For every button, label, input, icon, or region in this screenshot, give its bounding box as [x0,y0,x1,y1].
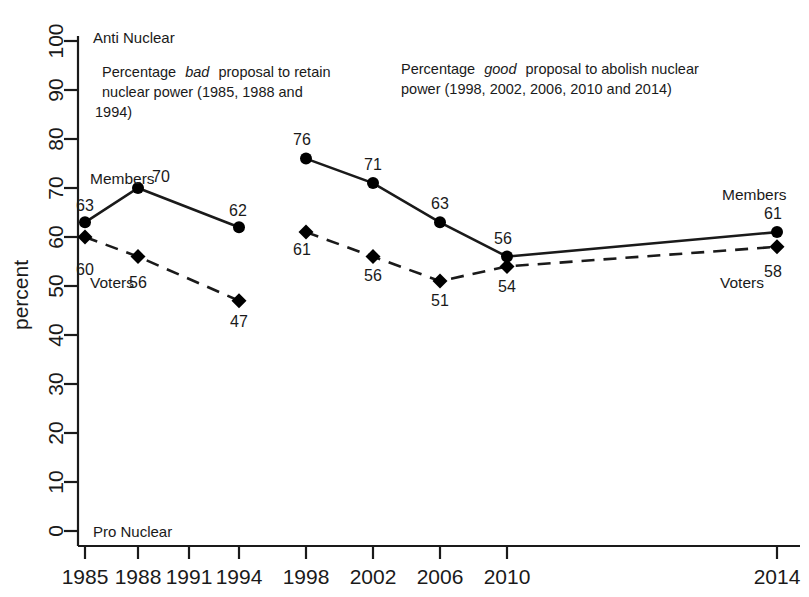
y-tick-label-90: 90 [44,78,67,101]
value-label-members-1985: 63 [76,197,94,214]
voters-marker-2002 [366,249,381,264]
value-label-members-2010: 56 [494,230,512,247]
voters-marker-1994 [232,293,247,308]
note-right-text-a: Percentage [401,61,475,77]
note-left-emphasis: bad [185,64,210,80]
y-tick-label-40: 40 [44,323,67,346]
voters-marker-1985 [78,230,93,245]
series-label-voters-left: Voters [90,274,134,291]
y-tick-label-10: 10 [44,470,67,493]
y-axis-title: percent [9,260,32,330]
series-label-voters-right: Voters [720,274,764,291]
members-marker-2010 [501,251,513,263]
y-tick-label-80: 80 [44,127,67,150]
voters-marker-2014 [770,239,785,254]
y-tick-label-60: 60 [44,225,67,248]
y-tick-label-0: 0 [44,525,67,537]
note-left-line3: 1994) [95,104,132,120]
data-value-labels: 63 70 62 60 56 47 76 71 63 56 61 61 56 5… [76,131,782,330]
y-tick-label-100: 100 [44,23,67,58]
x-tick-label-1988: 1988 [115,565,162,588]
value-label-members-2002: 71 [364,156,382,173]
note-right-line2: power (1998, 2002, 2006, 2010 and 2014) [401,81,672,97]
note-left-line1: Percentage bad proposal to retain [102,64,330,80]
chart-svg: 100 90 80 70 60 50 40 30 20 10 0 percent [0,0,809,597]
x-tick-label-2010: 2010 [484,565,531,588]
value-label-members-1998: 76 [293,131,311,148]
value-label-voters-2006: 51 [431,292,449,309]
value-label-members-1988: 70 [152,168,170,185]
pro-nuclear-label: Pro Nuclear [93,523,172,540]
members-marker-2006 [434,216,446,228]
voters-marker-1998 [299,225,314,240]
x-tick-label-1991: 1991 [166,565,213,588]
value-label-voters-2014: 58 [764,263,782,280]
value-label-voters-1994: 47 [230,313,248,330]
value-label-members-1994: 62 [229,202,247,219]
note-right-text-b: proposal to abolish nuclear [526,61,699,77]
x-tick-labels: 1985 1988 1991 1994 1998 2002 2006 2010 … [62,565,801,588]
note-left: Percentage bad proposal to retain nuclea… [95,64,330,120]
value-label-voters-2010: 54 [498,278,516,295]
x-tick-label-1985: 1985 [62,565,109,588]
note-right: Percentage good proposal to abolish nucl… [401,61,699,97]
note-left-text-a: Percentage [102,64,176,80]
chart-container: 100 90 80 70 60 50 40 30 20 10 0 percent [0,0,809,597]
note-left-line2: nuclear power (1985, 1988 and [102,84,303,100]
value-label-voters-2002: 56 [364,267,382,284]
series-label-members-left: Members [90,170,155,187]
value-label-voters-1998: 61 [293,241,311,258]
members-line-left [85,188,239,227]
series-name-labels: Members Voters Members Voters [90,170,787,291]
voters-marker-1988 [131,249,146,264]
members-marker-2014 [771,226,783,238]
x-tick-label-2002: 2002 [350,565,397,588]
value-label-members-2014: 61 [764,205,782,222]
value-label-members-2006: 63 [431,195,449,212]
members-marker-1998 [300,153,312,165]
y-tick-label-70: 70 [44,176,67,199]
voters-line-left [85,237,239,301]
y-tick-labels: 100 90 80 70 60 50 40 30 20 10 0 [44,23,67,536]
note-right-line1: Percentage good proposal to abolish nucl… [401,61,699,77]
members-marker-1985 [79,216,91,228]
note-right-emphasis: good [484,61,517,77]
note-left-text-b: proposal to retain [218,64,330,80]
y-tick-label-50: 50 [44,274,67,297]
voters-marker-2006 [433,274,448,289]
y-tick-label-20: 20 [44,421,67,444]
members-line-right [306,159,777,257]
y-tick-label-30: 30 [44,372,67,395]
x-tick-label-2006: 2006 [417,565,464,588]
anti-nuclear-label: Anti Nuclear [93,29,175,46]
x-tick-label-2014: 2014 [754,565,801,588]
x-tick-marks [85,546,777,559]
members-marker-2002 [367,177,379,189]
x-tick-label-1998: 1998 [283,565,330,588]
series-label-members-right: Members [722,186,787,203]
x-tick-label-1994: 1994 [216,565,263,588]
members-marker-1994 [233,221,245,233]
